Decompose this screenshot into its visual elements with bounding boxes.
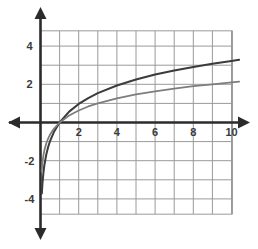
y-tick-label-neg2: -2 [25, 155, 35, 167]
coordinate-plane-chart: 24681042-2-4 [0, 0, 258, 249]
y-tick-label-neg4: -4 [25, 193, 36, 205]
chart-background [0, 0, 258, 249]
y-tick-label-4: 4 [26, 40, 33, 52]
x-tick-label-10: 10 [225, 126, 237, 138]
x-tick-label-2: 2 [76, 126, 82, 138]
x-tick-label-6: 6 [152, 126, 158, 138]
x-tick-label-8: 8 [190, 126, 196, 138]
graph-canvas: 24681042-2-4 [0, 0, 258, 249]
x-tick-label-4: 4 [114, 126, 121, 138]
y-tick-label-2: 2 [26, 78, 32, 90]
